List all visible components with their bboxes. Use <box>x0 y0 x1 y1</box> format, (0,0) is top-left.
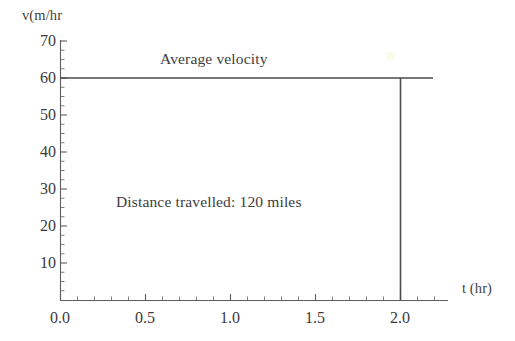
velocity-time-chart: v(m/hr t (hr) 70 60 50 40 30 20 10 0.0 0… <box>0 0 515 341</box>
axis-spines <box>60 40 448 301</box>
plot-vector-layer <box>0 0 515 341</box>
y-major-ticks <box>61 41 68 263</box>
x-minor-ticks <box>78 297 435 301</box>
y-minor-ticks <box>61 50 65 291</box>
